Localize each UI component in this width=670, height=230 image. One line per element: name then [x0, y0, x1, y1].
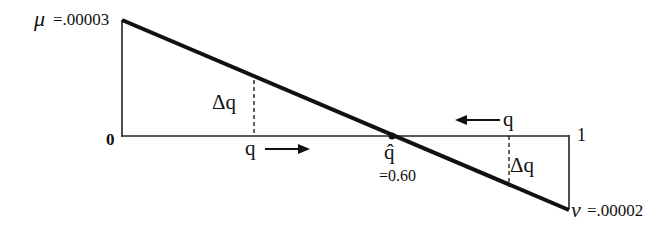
left-arrow-icon	[455, 115, 500, 125]
mu-value: =.00003	[53, 10, 109, 29]
left-q-label: q	[245, 136, 256, 160]
nu-value: =.00002	[587, 201, 643, 220]
one-label: 1	[577, 125, 586, 145]
origin-label: 0	[106, 130, 115, 149]
left-delta-q-label: Δq	[212, 90, 237, 114]
q-hat-value: =0.60	[379, 167, 416, 184]
diagram: μ =.00003 ν =.00002 0 1 Δq Δq q q q̂ =0.…	[0, 0, 670, 230]
mu-symbol: μ	[33, 6, 45, 31]
delta-q-line	[122, 20, 569, 210]
q-hat-label: q̂	[384, 140, 395, 164]
equilibrium-point	[389, 133, 396, 140]
nu-symbol: ν	[571, 197, 581, 222]
right-q-label: q	[503, 107, 514, 131]
right-delta-q-label: Δq	[510, 153, 535, 177]
right-arrow-icon	[265, 144, 310, 154]
